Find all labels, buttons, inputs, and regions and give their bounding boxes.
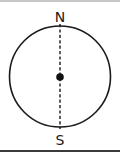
- bottom-border-line: [0, 150, 120, 152]
- south-label: S: [56, 132, 65, 148]
- center-point-dot: [56, 73, 64, 81]
- diagram-frame: N S: [0, 0, 120, 157]
- north-label: N: [55, 9, 65, 25]
- compass-diagram: N S: [0, 0, 120, 157]
